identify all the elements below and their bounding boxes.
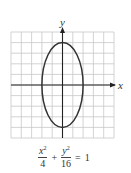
x-axis-arrow-icon bbox=[110, 83, 116, 88]
axes: x y bbox=[11, 16, 123, 138]
fraction-y-term: y2 16 bbox=[61, 146, 71, 169]
exponent: 2 bbox=[67, 144, 70, 150]
y-axis-label: y bbox=[59, 16, 65, 28]
plus-operator: + bbox=[51, 152, 57, 163]
fraction-denominator: 4 bbox=[40, 158, 45, 169]
fraction-denominator: 16 bbox=[61, 158, 71, 169]
ellipse-equation: x2 4 + y2 16 = 1 bbox=[38, 143, 90, 171]
fraction-numerator: x2 bbox=[38, 146, 47, 158]
x-axis-label: x bbox=[117, 79, 123, 91]
fraction-x-term: x2 4 bbox=[38, 146, 47, 169]
right-hand-side: 1 bbox=[85, 152, 90, 163]
fraction-numerator: y2 bbox=[61, 146, 70, 158]
equals-sign: = bbox=[75, 152, 81, 163]
exponent: 2 bbox=[43, 144, 46, 150]
